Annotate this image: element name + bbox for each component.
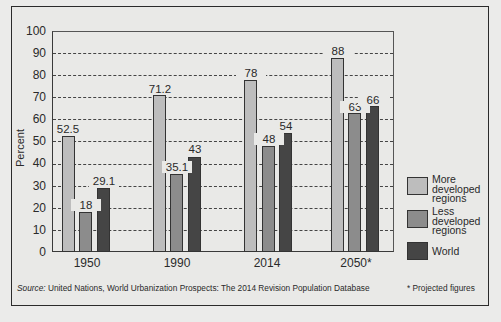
y-tick: 30 <box>24 180 46 192</box>
y-tick: 100 <box>24 25 46 37</box>
y-axis-label: Percent <box>14 118 26 178</box>
value-label: 78 <box>236 67 266 79</box>
source-note: Source: United Nations, World Urbanizati… <box>17 283 370 293</box>
bar-less-developed-1950 <box>79 212 92 252</box>
value-label: 29.1 <box>89 175 119 187</box>
value-label: 71.2 <box>145 83 175 95</box>
value-label: 18 <box>71 199 101 211</box>
bar-world-2050 <box>366 106 379 252</box>
bar-less-developed-1990 <box>170 174 183 252</box>
bar-more-developed-2014 <box>244 80 257 252</box>
value-label: 48 <box>254 133 284 145</box>
bar-world-2014 <box>279 133 292 252</box>
x-tick-1990: 1990 <box>152 256 202 270</box>
y-tick: 0 <box>24 246 46 258</box>
y-tick: 60 <box>24 113 46 125</box>
y-tick: 10 <box>24 224 46 236</box>
bar-less-developed-2050 <box>348 113 361 252</box>
y-tick: 80 <box>24 69 46 81</box>
value-label: 52.5 <box>53 123 83 135</box>
x-tick-1950: 1950 <box>62 256 112 270</box>
y-tick: 90 <box>24 47 46 59</box>
projected-footnote: * Projected figures <box>407 283 475 293</box>
value-label: 43 <box>180 143 210 155</box>
legend-swatch-more-developed <box>407 177 428 195</box>
bar-less-developed-2014 <box>262 146 275 252</box>
value-label: 88 <box>323 45 353 57</box>
legend-label-more-developed: More developed regions <box>432 175 482 204</box>
y-tick: 20 <box>24 202 46 214</box>
bar-more-developed-1990 <box>153 95 166 252</box>
y-tick: 70 <box>24 91 46 103</box>
legend-swatch-world <box>407 242 428 260</box>
y-tick: 50 <box>24 135 46 147</box>
source-label: Source: <box>17 283 46 293</box>
bar-more-developed-2050 <box>331 58 344 252</box>
source-text: United Nations, World Urbanization Prosp… <box>46 283 370 293</box>
value-label: 66 <box>358 94 388 106</box>
bar-more-developed-1950 <box>62 136 75 252</box>
legend-swatch-less-developed <box>407 210 428 228</box>
legend-label-world: World <box>432 247 482 257</box>
x-tick-2014: 2014 <box>242 256 292 270</box>
bar-world-1950 <box>97 188 110 252</box>
legend-label-less-developed: Less developed regions <box>432 207 482 236</box>
y-tick: 40 <box>24 157 46 169</box>
value-label: 54 <box>271 120 301 132</box>
value-label: 35.1 <box>162 161 192 173</box>
x-tick-2050: 2050* <box>331 256 381 270</box>
